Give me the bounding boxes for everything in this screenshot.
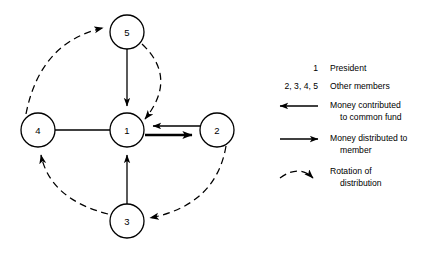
node-1[interactable]: 1	[110, 113, 144, 147]
legend-row-rotation: Rotation of distribution	[280, 166, 382, 188]
node-5-label: 5	[124, 27, 129, 38]
legend-desc-other-members: Other members	[330, 81, 390, 91]
node-3-label: 3	[124, 216, 129, 227]
legend-desc-contributed-line2: to common fund	[340, 112, 402, 122]
node-2-label: 2	[214, 125, 219, 136]
rotation-edge-2-to-3	[150, 146, 226, 218]
legend-row-contributed: Money contributed to common fund	[280, 100, 402, 122]
node-2[interactable]: 2	[200, 113, 234, 147]
diagram-canvas: 5 4 1 2 3 1 President 2, 3, 4,	[0, 0, 429, 256]
legend-row-distributed: Money distributed to member	[280, 133, 408, 155]
legend-row-president: 1 President	[313, 63, 367, 73]
legend-desc-distributed-line2: member	[340, 145, 372, 155]
legend: 1 President 2, 3, 4, 5 Other members Mon…	[280, 63, 408, 188]
node-1-label: 1	[124, 125, 129, 136]
node-3[interactable]: 3	[110, 204, 144, 238]
rotation-edge-4-to-5	[26, 28, 103, 114]
legend-desc-rotation-line2: distribution	[340, 178, 382, 188]
rotation-edge-3-to-4	[41, 155, 108, 214]
figure-root: 5 4 1 2 3 1 President 2, 3, 4,	[0, 0, 429, 256]
dashed-curve-arrow-icon	[280, 171, 313, 178]
node-4-label: 4	[35, 125, 40, 136]
legend-key-president: 1	[313, 63, 318, 73]
node-5[interactable]: 5	[110, 15, 144, 49]
legend-key-other-members: 2, 3, 4, 5	[285, 81, 319, 91]
legend-desc-distributed-line1: Money distributed to	[330, 133, 408, 143]
rotation-edge-5-to-1	[142, 44, 161, 119]
legend-row-other-members: 2, 3, 4, 5 Other members	[285, 81, 390, 91]
legend-desc-contributed-line1: Money contributed	[330, 100, 401, 110]
legend-desc-rotation-line1: Rotation of	[330, 166, 372, 176]
node-4[interactable]: 4	[21, 113, 55, 147]
legend-desc-president: President	[330, 63, 367, 73]
